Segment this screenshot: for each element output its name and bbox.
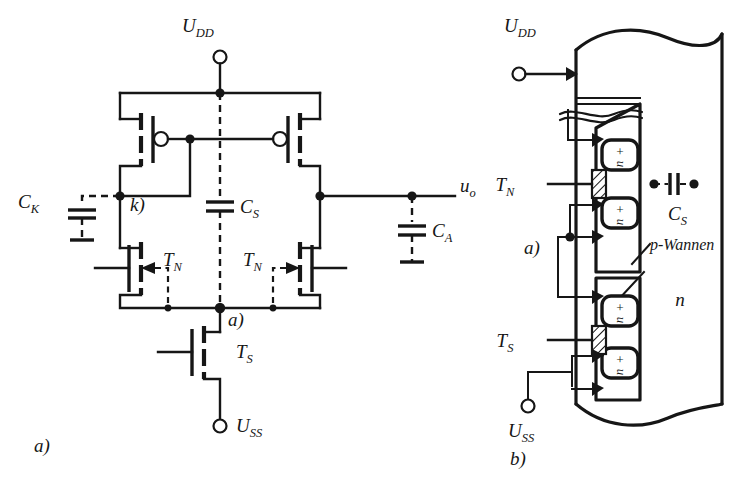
panel-a: UDD CK CS CA k) a) TN TN TS [18,15,476,457]
cs-label-b: CS [668,203,688,228]
panel-b-caption: b) [510,448,526,470]
cs-label-a: CS [240,196,260,221]
ts-label-a: TS [236,341,254,366]
substrate-top-break [576,30,722,50]
nmos-right-source-rail [300,295,320,308]
nmos-left[interactable] [95,242,320,308]
nplus-label-3-type: n [611,317,626,324]
pmos-right-bottom-lead [300,166,320,196]
tn-gate-oxide [592,170,606,198]
udd-terminal-b[interactable] [513,67,579,81]
nmos-right-bulk-tie [273,268,286,308]
udd-terminal-ring [214,51,227,64]
nplus-label-1-type: n [611,161,626,168]
nplus-region-tn-drain: + n [602,140,638,170]
panel-b: + n + n [496,15,722,470]
pmos-right-inversion-bubble [273,132,287,146]
nplus-region-ts-source: + n [602,348,638,378]
uo-label: uo [460,175,476,200]
udd-label-a: UDD [182,15,214,40]
panel-a-caption: a) [34,435,50,457]
node-a-dot-b [565,232,574,241]
nplus-label-2-sign: + [616,202,625,217]
circuit-canvas: UDD CK CS CA k) a) TN TN TS [0,0,756,480]
node-a-well-contact [592,230,604,244]
nplus-label-2-type: n [611,219,626,226]
tn-right-label: TN [243,249,263,274]
uss-terminal-ring-b [522,400,535,413]
udd-label-b: UDD [504,15,536,40]
cross-couple-feedback-left [120,139,190,196]
cs-substrate-dot-b [689,179,698,188]
ts-source-lead [204,379,220,420]
tn-label-b: TN [496,174,516,199]
nmos-ts[interactable] [158,308,220,420]
uss-label-b: USS [508,420,535,445]
ts-gate-oxide [592,326,606,354]
figure-root: UDD CK CS CA k) a) TN TN TS [0,0,756,480]
udd-terminal-ring-b [513,68,526,81]
bulk-tie-dot-right [270,305,277,312]
substrate-n-label: n [675,289,685,310]
ts-label-b: TS [497,330,515,355]
nplus-label-4-type: n [611,369,626,376]
nplus-label-4-sign: + [616,352,625,367]
pmos-right[interactable] [190,113,320,196]
ck-branch-wire [82,196,120,206]
uss-terminal-b[interactable] [522,400,535,413]
ca-label: CA [432,220,453,245]
substrate-bottom-break [576,404,722,425]
bulk-tie-dot-left [165,305,172,312]
ts-well-contact [592,382,604,396]
udd-terminal-a[interactable] [214,51,227,94]
node-a-label: a) [228,309,244,331]
pmos-left-inversion-bubble [154,132,168,146]
uss-terminal-a[interactable] [214,420,227,433]
nmos-right[interactable] [273,242,346,308]
nplus-region-tn-source: + n [602,198,638,228]
nmos-left-bulk-tie [155,268,168,308]
nplus-label-3-sign: + [616,300,625,315]
nplus-label-1-sign: + [616,144,625,159]
tn-source-metal [570,205,592,233]
node-a-label-b: a) [524,237,540,259]
pmos-left-bottom-lead [120,166,141,196]
p-wannen-label: p-Wannen [649,236,714,254]
ck-label: CK [18,191,40,216]
uss-terminal-ring [214,420,227,433]
node-k-label: k) [130,194,145,216]
tn-left-label: TN [163,249,183,274]
uss-metal-run [528,372,572,400]
uss-label-a: USS [236,415,263,440]
nplus-region-ts-drain: + n [602,296,638,326]
pmos-left[interactable] [120,113,190,196]
nmos-left-bulk-arrow [141,262,155,274]
